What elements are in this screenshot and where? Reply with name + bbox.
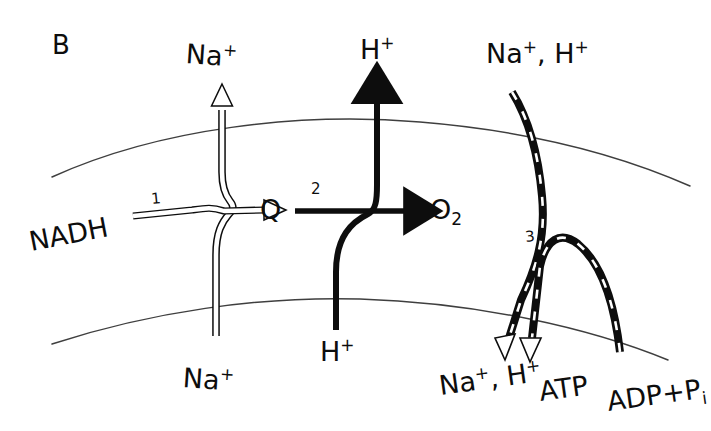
label-proton-in: H+ (320, 338, 355, 365)
label-proton-out-charge: + (380, 33, 394, 53)
label-oxygen-subscript: 2 (451, 209, 462, 229)
label-cation-out-na: Na (486, 38, 523, 69)
label-oxygen-text: O (430, 194, 451, 225)
proton-translocation-arrow (336, 86, 377, 330)
diagram-canvas (0, 0, 711, 431)
label-na-influx-charge: + (219, 364, 235, 385)
label-cation-in-h-charge: + (524, 355, 541, 377)
figure-panel-b: B Na+ NADH 1 Q 2 H+ H+ O2 Na+, H+ 3 Na+,… (0, 0, 711, 431)
label-na-efflux-text: Na (185, 38, 224, 71)
complex-2-pathways (295, 86, 420, 330)
label-na-efflux: Na+ (185, 40, 238, 70)
upper-membrane-boundary (52, 119, 690, 186)
label-cation-out-na-charge: + (523, 37, 537, 57)
label-proton-in-text: H (320, 336, 340, 367)
label-atp: ATP (537, 371, 589, 405)
label-na-influx: Na+ (182, 364, 235, 394)
page-title: B (52, 32, 70, 58)
label-cation-in-comma: , (487, 362, 500, 394)
cation-influx-arrowhead (495, 334, 515, 360)
atp-synthesis-arrow (532, 238, 620, 352)
label-na-efflux-charge: + (222, 40, 238, 61)
na-efflux-arrowhead (212, 84, 233, 106)
label-cation-out-h-charge: + (575, 37, 589, 57)
label-cation-out: Na+, H+ (486, 40, 589, 67)
complex-number-2: 2 (311, 182, 321, 197)
complex-number-3: 3 (524, 229, 535, 245)
label-quinone-text: Q (260, 194, 281, 225)
cell-membrane (52, 119, 690, 360)
label-proton-out-text: H (360, 34, 380, 65)
complex-3-pathways (495, 92, 620, 362)
label-cation-out-h: H (554, 38, 574, 69)
label-cation-in-na: Na (437, 365, 478, 401)
label-quinone: Q (260, 196, 281, 223)
complex-number-1: 1 (150, 191, 161, 207)
label-proton-out: H+ (360, 36, 395, 63)
label-na-influx-text: Na (182, 362, 221, 395)
lower-membrane-boundary (52, 299, 668, 360)
label-proton-in-charge: + (340, 335, 354, 355)
label-oxygen: O2 (430, 196, 462, 223)
label-cation-out-comma: , (537, 38, 546, 69)
